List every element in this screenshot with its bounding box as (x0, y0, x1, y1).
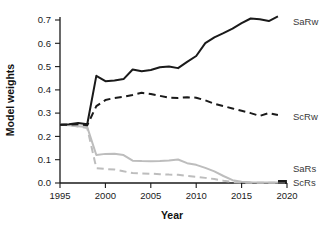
y-tick-label-7: 0.7 (38, 14, 51, 25)
series-label-SaRs: SaRs (293, 163, 316, 174)
y-tick-label-4: 0.4 (38, 84, 51, 95)
x-tick-label-2000: 2000 (95, 190, 116, 201)
x-tick-label-2010: 2010 (186, 190, 207, 201)
x-axis-title: Year (161, 209, 183, 221)
x-tick-label-1995: 1995 (49, 190, 70, 201)
series-line-SaRw (60, 16, 278, 124)
y-tick-label-5: 0.5 (38, 61, 51, 72)
series-label-SaRw: SaRw (293, 16, 318, 27)
x-tick-label-2005: 2005 (140, 190, 161, 201)
y-tick-label-6: 0.6 (38, 38, 51, 49)
y-axis-ticks (55, 20, 60, 183)
x-tick-label-2015: 2015 (231, 190, 252, 201)
model-weights-line-chart: Model weights Year 0.0 0.1 0.2 0.3 0.4 0… (0, 0, 333, 227)
x-axis-ticks (60, 183, 287, 188)
y-tick-label-2: 0.2 (38, 131, 51, 142)
x-tick-label-2020: 2020 (276, 190, 297, 201)
data-series-group (60, 16, 286, 184)
series-label-ScRw: ScRw (293, 111, 318, 122)
y-tick-label-3: 0.3 (38, 107, 51, 118)
series-line-ScRs (60, 125, 278, 183)
y-axis-title: Model weights (4, 64, 16, 136)
y-tick-label-1: 0.1 (38, 154, 51, 165)
y-tick-label-0: 0.0 (38, 177, 51, 188)
chart-canvas: Model weights Year 0.0 0.1 0.2 0.3 0.4 0… (0, 0, 333, 227)
series-label-ScRs: ScRs (293, 177, 316, 188)
